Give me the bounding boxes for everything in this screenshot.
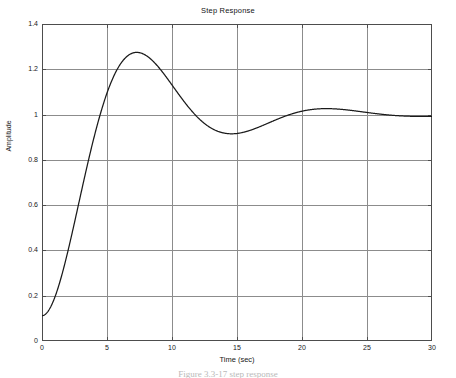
plot-area: [42, 24, 432, 341]
x-tick-label: 15: [227, 344, 247, 352]
y-tick-label: 0.2: [10, 292, 38, 300]
x-tick-label: 5: [97, 344, 117, 352]
x-tick-label: 10: [162, 344, 182, 352]
y-tick-label: 1: [10, 111, 38, 119]
y-tick-label: 1.4: [10, 20, 38, 28]
y-tick-label: 1.2: [10, 65, 38, 73]
figure-caption: Figure 3.3-17 step response: [0, 369, 456, 378]
chart-title: Step Response: [0, 6, 456, 15]
x-tick-label: 0: [32, 344, 52, 352]
x-tick-label: 20: [292, 344, 312, 352]
x-axis-label: Time (sec): [42, 355, 432, 364]
y-tick-label: 0.4: [10, 246, 38, 254]
figure-container: Step Response Amplitude 00.20.40.60.811.…: [0, 0, 456, 378]
x-tick-label: 25: [357, 344, 377, 352]
x-tick-label: 30: [422, 344, 442, 352]
step-response-plot: [42, 24, 432, 341]
y-tick-label: 0.8: [10, 156, 38, 164]
y-tick-label: 0.6: [10, 201, 38, 209]
